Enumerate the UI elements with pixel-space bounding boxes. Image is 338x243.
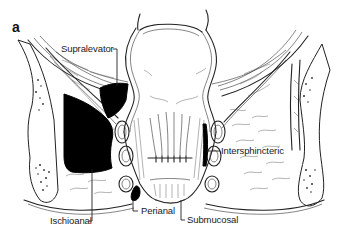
perianal-leader — [133, 200, 138, 211]
right-obturator — [291, 60, 301, 150]
supralevator-leader — [113, 49, 117, 86]
rectum — [124, 10, 217, 132]
anal-columns — [148, 112, 192, 162]
panel-label: a — [12, 20, 20, 34]
label-perianal: Perianal — [141, 206, 175, 216]
label-submucosal: Submucosal — [187, 215, 238, 225]
label-supralevator: Supralevator — [61, 44, 114, 54]
label-ischioanal: Ischioanal — [50, 216, 92, 226]
label-intersphincteric: Intersphincteric — [221, 146, 284, 156]
anatomical-diagram: a Supralevator Intersphincteric Ischioan… — [0, 0, 338, 243]
ischioanal-leader — [89, 169, 92, 221]
submucosal-leader — [181, 200, 185, 220]
left-pelvic-bone — [18, 40, 58, 202]
supralevator-abscess — [100, 83, 128, 118]
right-pelvic-bone — [298, 44, 330, 206]
intersphincteric-abscess — [203, 124, 208, 166]
